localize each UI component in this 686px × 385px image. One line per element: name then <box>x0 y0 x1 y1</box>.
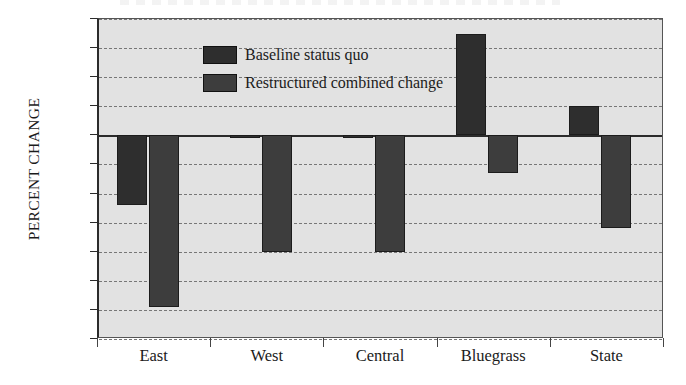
gridline <box>99 310 662 311</box>
y-axis-tick-mark <box>90 163 97 164</box>
y-axis-tick-mark <box>90 18 97 19</box>
plot-area: Baseline status quoRestructured combined… <box>97 18 663 338</box>
bar <box>601 135 631 228</box>
bar <box>230 135 260 138</box>
y-axis-tick-mark <box>90 134 97 135</box>
gridline <box>99 19 662 20</box>
bar <box>117 135 147 205</box>
y-axis-tick-mark <box>90 105 97 106</box>
y-axis-tick-mark <box>90 280 97 281</box>
bar <box>343 135 373 138</box>
bar <box>262 135 292 251</box>
bar <box>456 34 486 136</box>
legend-item: Restructured combined change <box>203 70 443 96</box>
x-axis-category-label: State <box>536 346 676 366</box>
gridline <box>99 281 662 282</box>
y-axis-tick-mark <box>90 309 97 310</box>
y-axis-tick-mark <box>90 193 97 194</box>
y-axis-title: PERCENT CHANGE <box>25 19 43 319</box>
y-axis-tick-mark <box>90 47 97 48</box>
legend-label: Restructured combined change <box>245 74 443 92</box>
gridline <box>99 339 662 340</box>
bar <box>149 135 179 307</box>
y-axis-tick-mark <box>90 338 97 339</box>
gridline <box>99 252 662 253</box>
legend-swatch-icon <box>203 74 237 92</box>
bar <box>375 135 405 251</box>
legend-swatch-icon <box>203 46 237 64</box>
cropped-title-remnant <box>120 0 560 5</box>
legend-item: Baseline status quo <box>203 42 443 68</box>
bar <box>569 106 599 135</box>
legend-label: Baseline status quo <box>245 46 369 64</box>
y-axis-tick-mark <box>90 76 97 77</box>
chart-figure: PERCENT CHANGE 20151050-5-10-15-20-25-30… <box>0 0 686 385</box>
y-axis-tick-mark <box>90 222 97 223</box>
y-axis-tick-mark <box>90 251 97 252</box>
bar <box>488 135 518 173</box>
chart-legend: Baseline status quoRestructured combined… <box>203 42 443 98</box>
